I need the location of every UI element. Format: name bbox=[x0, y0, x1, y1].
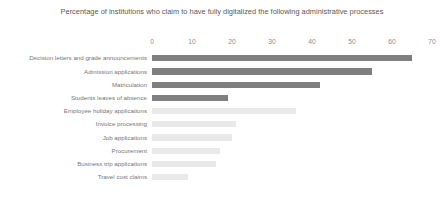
category-label: Procurement bbox=[112, 147, 147, 155]
category-label: Employee holiday applications bbox=[64, 107, 147, 115]
bar bbox=[152, 161, 216, 167]
bar-row: Decision letters and grade announcements bbox=[0, 52, 444, 65]
bar bbox=[152, 55, 412, 61]
bar bbox=[152, 95, 228, 101]
bar bbox=[152, 148, 220, 154]
x-axis-tick-60: 60 bbox=[388, 38, 395, 45]
category-label: Students leaves of absence bbox=[71, 94, 147, 102]
bar bbox=[152, 68, 372, 74]
bar-row: Job applications bbox=[0, 131, 444, 144]
x-axis-tick-labels: 010203040506070 bbox=[152, 38, 432, 50]
x-axis-tick-30: 30 bbox=[268, 38, 275, 45]
bar-chart: Percentage of institutions who claim to … bbox=[0, 0, 444, 213]
bar-row: Matriculation bbox=[0, 78, 444, 91]
category-label: Invoice processing bbox=[96, 120, 147, 128]
x-axis-tick-70: 70 bbox=[428, 38, 435, 45]
category-label: Decision letters and grade announcements bbox=[29, 54, 147, 62]
bar-track bbox=[152, 148, 432, 154]
category-label: Matriculation bbox=[112, 81, 147, 89]
bar bbox=[152, 108, 296, 114]
bar-track bbox=[152, 108, 432, 114]
bar-row: Procurement bbox=[0, 144, 444, 157]
bar-rows: Decision letters and grade announcements… bbox=[0, 52, 444, 184]
category-label: Travel cost claims bbox=[98, 173, 147, 181]
x-axis-tick-10: 10 bbox=[188, 38, 195, 45]
bar-row: Employee holiday applications bbox=[0, 105, 444, 118]
category-label: Business trip applications bbox=[77, 160, 147, 168]
bar-row: Travel cost claims bbox=[0, 171, 444, 184]
bar-track bbox=[152, 161, 432, 167]
x-axis-tick-40: 40 bbox=[308, 38, 315, 45]
bar bbox=[152, 121, 236, 127]
chart-title-line-1: Percentage of institutions who claim to … bbox=[61, 7, 348, 16]
bar-row: Students leaves of absence bbox=[0, 92, 444, 105]
chart-title: Percentage of institutions who claim to … bbox=[60, 6, 384, 18]
bar-row: Admission applications bbox=[0, 65, 444, 78]
bar bbox=[152, 134, 232, 140]
bar-row: Invoice processing bbox=[0, 118, 444, 131]
bar-track bbox=[152, 55, 432, 61]
bar-track bbox=[152, 68, 432, 74]
x-axis-tick-50: 50 bbox=[348, 38, 355, 45]
bar bbox=[152, 82, 320, 88]
bar-track bbox=[152, 134, 432, 140]
bar-track bbox=[152, 82, 432, 88]
bar-track bbox=[152, 174, 432, 180]
plot-area: 010203040506070 Decision letters and gra… bbox=[0, 38, 444, 210]
category-label: Job applications bbox=[103, 134, 147, 142]
category-label: Admission applications bbox=[84, 68, 147, 76]
x-axis-tick-0: 0 bbox=[150, 38, 154, 45]
x-axis-tick-20: 20 bbox=[228, 38, 235, 45]
bar-row: Business trip applications bbox=[0, 158, 444, 171]
bar bbox=[152, 174, 188, 180]
bar-track bbox=[152, 95, 432, 101]
bar-track bbox=[152, 121, 432, 127]
chart-title-line-2: processes bbox=[350, 7, 384, 16]
